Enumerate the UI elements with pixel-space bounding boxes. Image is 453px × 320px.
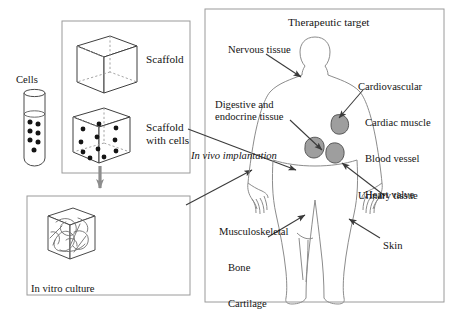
musculoskeletal-item-bone: Bone (219, 262, 288, 275)
cardiovascular-heading: Cardiovascular (358, 81, 431, 94)
invitro-caption: In vitro culture functional organs forme… (31, 259, 138, 320)
organ-shapes (305, 115, 349, 163)
invitro-line-1: In vitro culture (31, 283, 138, 296)
page-title: Therapeutic target (288, 16, 369, 29)
label-in-vivo-implantation: In vivo implantation (191, 150, 277, 162)
scaffold-with-cells-cube (73, 108, 130, 163)
label-nervous-tissue: Nervous tissue (228, 44, 291, 56)
label-skin: Skin (383, 240, 402, 252)
label-urinary-tissue: Urinary tissue (358, 190, 418, 202)
cells-label: Cells (16, 74, 38, 86)
arrow-nervous (266, 54, 301, 77)
functional-organ-cube (48, 208, 95, 259)
cardiovascular-item-blood-vessel: Blood vessel (358, 153, 431, 166)
kidney-right-organ (326, 143, 344, 163)
cell-tube-illustration (24, 89, 45, 166)
tube-cells (28, 120, 41, 153)
arrow-invitro-to-body (186, 170, 252, 205)
musculoskeletal-heading: Musculoskeletal (219, 226, 288, 239)
cardiovascular-item-cardiac-muscle: Cardiac muscle (358, 117, 431, 130)
label-musculoskeletal-group: Musculoskeletal Bone Cartilage Muscle Li… (219, 202, 288, 320)
scaffold-cube (77, 36, 137, 93)
kidney-left-organ (305, 137, 324, 158)
liquid-level (24, 111, 45, 117)
scaffold-label: Scaffold (146, 53, 184, 66)
diagram-canvas: Cells Scaffold Scaffold with cells In vi… (0, 0, 453, 320)
implantation-arrows (186, 129, 296, 205)
musculoskeletal-item-cartilage: Cartilage (219, 298, 288, 311)
scaffold-with-cells-label: Scaffold with cells (146, 121, 189, 146)
label-digestive-endocrine: Digestive and endocrine tissue (215, 99, 284, 123)
